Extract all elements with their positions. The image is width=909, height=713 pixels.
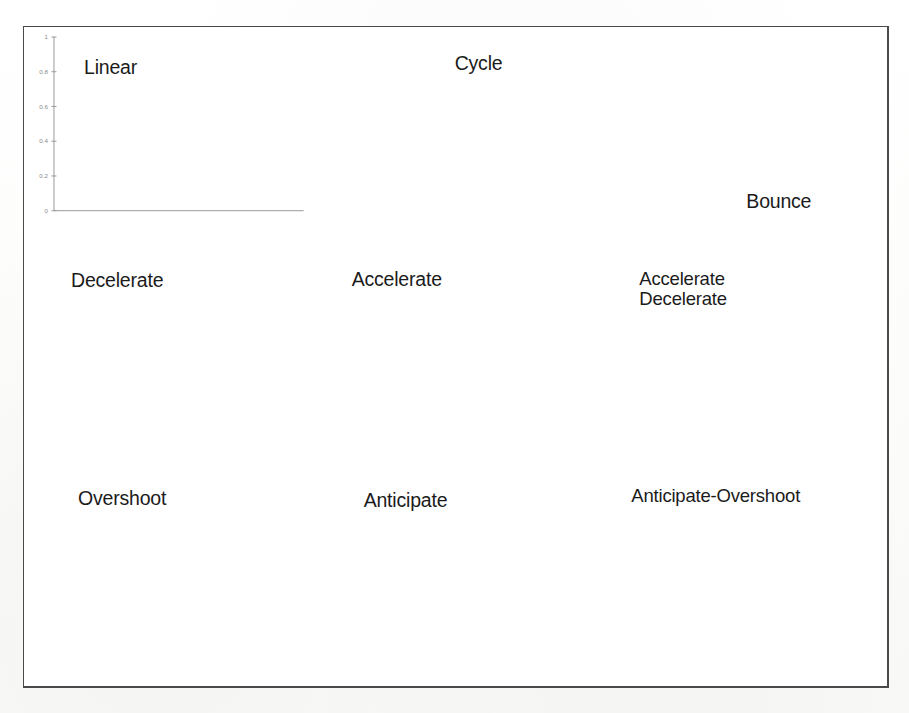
y-tick-label: 0.2 [39,172,48,179]
linear-plot: 00.20.40.60.81 [24,27,312,247]
chart-panel-anticipate[interactable]: Anticipate [312,466,600,686]
chart-title-accelerate-decelerate: Accelerate Decelerate [639,269,726,309]
chart-title-bounce: Bounce [746,191,811,212]
chart-title-accelerate: Accelerate [352,269,442,290]
chart-panel-bounce[interactable]: Bounce [599,27,887,247]
chart-title-decelerate: Decelerate [71,270,163,291]
chart-panel-cycle[interactable]: Cycle [312,27,600,247]
chart-panel-anticipate-overshoot[interactable]: Anticipate-Overshoot [599,466,887,686]
y-tick-label: 0.6 [39,103,48,110]
chart-title-anticipate-overshoot: Anticipate-Overshoot [631,486,800,506]
chart-grid: 00.20.40.60.81 Linear Cycle Bounce Decel… [24,27,887,686]
y-tick-label: 0.4 [39,137,48,144]
decelerate-plot [24,247,312,467]
y-tick-label: 1 [45,33,49,40]
overshoot-plot [24,466,312,686]
chart-panel-accelerate[interactable]: Accelerate [312,247,600,467]
y-tick-label: 0.8 [39,68,48,75]
bounce-plot [599,27,887,247]
anticipate-plot [312,466,600,686]
chart-title-cycle: Cycle [455,53,503,74]
chart-panel-decelerate[interactable]: Decelerate [24,247,312,467]
chart-title-anticipate: Anticipate [364,490,448,511]
chart-panel-overshoot[interactable]: Overshoot [24,466,312,686]
chart-panel-linear[interactable]: 00.20.40.60.81 Linear [24,27,312,247]
chart-title-overshoot: Overshoot [78,488,166,509]
figure-frame: 00.20.40.60.81 Linear Cycle Bounce Decel… [23,26,889,688]
chart-title-linear: Linear [84,57,137,78]
linear-axes: 00.20.40.60.81 [39,33,303,214]
y-tick-label: 0 [45,207,49,214]
chart-panel-accelerate-decelerate[interactable]: Accelerate Decelerate [599,247,887,467]
